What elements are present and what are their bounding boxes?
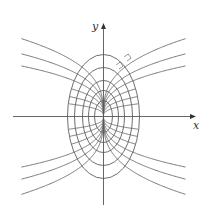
trajectory-curve-5 bbox=[104, 54, 186, 117]
trajectory-curve-7 bbox=[104, 117, 186, 180]
y-axis-arrowhead bbox=[101, 23, 106, 29]
y-axis-label: y bbox=[91, 20, 99, 33]
trajectory-curve-8 bbox=[22, 117, 104, 180]
trajectory-curve-4 bbox=[22, 117, 104, 195]
trajectory-curve-6 bbox=[22, 54, 104, 117]
right-angle-marker-1 bbox=[124, 54, 131, 61]
trajectory-curve-10 bbox=[22, 66, 104, 117]
x-axis-label: x bbox=[193, 119, 200, 132]
right-angle-markers bbox=[116, 54, 131, 69]
trajectory-curve-9 bbox=[104, 66, 186, 117]
trajectory-curve-12 bbox=[22, 117, 104, 168]
trajectory-curve-11 bbox=[104, 117, 186, 168]
trajectory-curve-2 bbox=[22, 39, 104, 117]
orthogonal-trajectories-diagram: x y bbox=[0, 0, 215, 206]
trajectory-curve-3 bbox=[104, 117, 186, 195]
trajectory-curve-1 bbox=[104, 39, 186, 117]
axes: x y bbox=[13, 20, 200, 205]
